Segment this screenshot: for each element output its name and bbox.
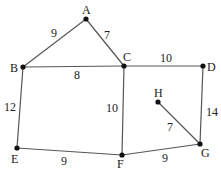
edge-weight-d-g: 14 [206,105,218,119]
weighted-graph: 97810121014799 ABCDEFGH [0,0,221,171]
edge-weight-b-c: 8 [74,68,80,82]
edge-weight-f-g: 9 [162,151,168,165]
node-label-f: F [117,157,124,171]
graph-edges [17,19,203,155]
node-h [155,99,160,104]
node-label-g: G [201,146,210,160]
node-label-h: H [154,86,163,100]
edge-e-f [17,148,122,155]
edge-f-g [122,144,200,155]
edge-weight-c-d: 10 [160,51,172,65]
node-label-e: E [11,152,18,166]
node-label-c: C [123,50,131,64]
node-c [121,63,126,68]
edge-weight-b-e: 12 [4,100,16,114]
edge-b-e [17,67,23,148]
edge-h-g [158,102,200,144]
node-e [14,145,19,150]
edge-d-g [200,66,203,144]
edge-a-c [86,19,124,66]
node-label-d: D [207,60,216,74]
node-d [200,63,205,68]
edge-weight-c-f: 10 [106,101,118,115]
edge-weight-a-c: 7 [104,28,110,42]
edge-weight-labels: 97810121014799 [4,26,218,168]
graph-nodes [14,16,205,157]
node-label-b: B [10,61,18,75]
node-a [83,16,88,21]
edge-weight-e-f: 9 [61,154,67,168]
edge-b-c [23,66,124,67]
edge-c-f [122,66,124,155]
edge-weight-h-g: 7 [167,120,173,134]
node-b [20,64,25,69]
edge-weight-a-b: 9 [51,26,57,40]
node-label-a: A [82,3,91,17]
